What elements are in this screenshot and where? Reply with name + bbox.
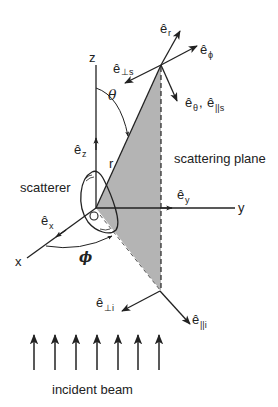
epar-i-arrow bbox=[160, 291, 190, 324]
etheta-arrow bbox=[161, 65, 177, 101]
svg-text:⊥s: ⊥s bbox=[121, 67, 134, 77]
svg-text:ê: ê bbox=[192, 312, 199, 327]
svg-text:ê: ê bbox=[200, 42, 207, 57]
scattering-geometry-diagram: z y x θ ϕ r scatterer scattering plane i… bbox=[0, 0, 278, 407]
er-label: ê r bbox=[160, 21, 171, 38]
svg-text:ê: ê bbox=[207, 95, 214, 110]
svg-text:ϕ: ϕ bbox=[208, 50, 213, 60]
epar-i-label: ê ||i bbox=[192, 312, 207, 330]
svg-text:ê: ê bbox=[113, 61, 120, 76]
origin-marker bbox=[90, 212, 98, 220]
svg-text:ê: ê bbox=[96, 295, 103, 310]
eperp-i-arrow bbox=[122, 291, 160, 311]
svg-text:ê: ê bbox=[41, 213, 48, 228]
svg-text:||s: ||s bbox=[215, 103, 225, 113]
svg-text:θ: θ bbox=[193, 103, 198, 113]
ez-label: ê z bbox=[74, 142, 87, 159]
incident-beam-arrows bbox=[34, 335, 159, 370]
theta-label: θ bbox=[108, 87, 117, 103]
eperp-s-label: ê ⊥s bbox=[113, 61, 134, 77]
etheta-par-s-label: ê θ , ê ||s bbox=[185, 95, 225, 113]
scatterer-label: scatterer bbox=[20, 180, 71, 195]
svg-text:ê: ê bbox=[74, 142, 81, 157]
phi-label: ϕ bbox=[79, 249, 92, 265]
scattering-plane-label: scattering plane bbox=[174, 151, 266, 166]
x-axis-label: x bbox=[15, 254, 22, 269]
svg-text:ê: ê bbox=[177, 187, 184, 202]
svg-text:x: x bbox=[49, 221, 54, 231]
svg-text:z: z bbox=[82, 149, 87, 159]
svg-text:||i: ||i bbox=[200, 320, 207, 330]
ex-arrow bbox=[56, 230, 66, 237]
z-axis-label: z bbox=[89, 50, 96, 65]
ephi-label: ê ϕ bbox=[200, 42, 213, 60]
ey-label: ê y bbox=[177, 187, 190, 205]
svg-text:ê: ê bbox=[185, 95, 192, 110]
y-axis-label: y bbox=[238, 200, 245, 215]
ex-label: ê x bbox=[41, 213, 54, 231]
svg-text:y: y bbox=[185, 195, 190, 205]
svg-text:r: r bbox=[168, 28, 171, 38]
svg-text:⊥i: ⊥i bbox=[104, 303, 114, 313]
scattering-plane-shape bbox=[96, 65, 161, 291]
incident-beam-label: incident beam bbox=[52, 382, 133, 397]
eperp-i-label: ê ⊥i bbox=[96, 295, 114, 313]
svg-text:ê: ê bbox=[160, 21, 167, 36]
svg-text:,: , bbox=[199, 95, 203, 110]
r-label: r bbox=[109, 156, 114, 171]
